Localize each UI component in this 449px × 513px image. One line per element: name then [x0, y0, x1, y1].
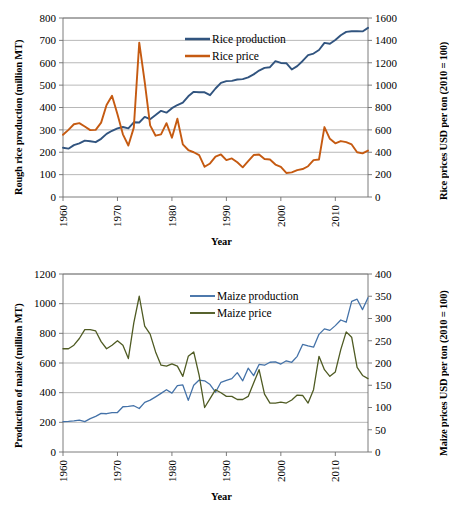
y-tick-label: 200	[40, 416, 57, 428]
rice-x-axis-title: Year	[0, 236, 443, 247]
maize-y-axis-title: Production of maize (million MT)	[13, 304, 24, 448]
y2-tick-label: 1400	[375, 34, 398, 46]
x-tick-label: 1970	[111, 205, 123, 228]
x-tick-label: 1960	[57, 205, 69, 228]
x-tick-label: 1990	[220, 460, 232, 483]
y-tick-label: 1200	[34, 268, 57, 280]
y-tick-label: 800	[40, 327, 57, 339]
y2-tick-label: 0	[375, 191, 381, 203]
maize-chart-panel: 0200400600800100012000501001502002503003…	[0, 256, 443, 512]
y-tick-label: 600	[40, 357, 57, 369]
y2-tick-label: 100	[375, 401, 392, 413]
y-tick-label: 400	[40, 386, 57, 398]
y2-tick-label: 0	[375, 446, 381, 458]
y-tick-label: 400	[40, 101, 57, 113]
x-tick-label: 2010	[329, 460, 341, 483]
y-tick-label: 300	[40, 124, 57, 136]
rice-y2-axis-title: Rice prices USD per ton (2010 = 100)	[438, 42, 449, 200]
y2-tick-label: 50	[375, 424, 387, 436]
rice-y-axis-title: Rough rice production (million MT)	[13, 40, 24, 195]
y-tick-label: 1000	[34, 297, 57, 309]
maize-y2-axis-title: Maize prices USD per ton (2010 = 100)	[438, 291, 449, 457]
y2-tick-label: 300	[375, 312, 392, 324]
legend-label-2: Rice price	[212, 50, 259, 63]
y2-tick-label: 400	[375, 268, 392, 280]
x-tick-label: 2010	[329, 205, 341, 228]
y-tick-label: 100	[40, 168, 57, 180]
x-tick-label: 2000	[275, 460, 287, 483]
maize-plot-area: 0200400600800100012000501001502002503003…	[0, 256, 443, 512]
y2-tick-label: 200	[375, 168, 392, 180]
x-tick-label: 2000	[275, 205, 287, 228]
y2-tick-label: 1000	[375, 79, 398, 91]
x-tick-label: 1980	[166, 460, 178, 483]
y2-tick-label: 350	[375, 290, 392, 302]
rice-chart-panel: 0100200300400500600700800020040060080010…	[0, 0, 443, 256]
y-tick-label: 700	[40, 34, 57, 46]
y2-tick-label: 1600	[375, 12, 398, 24]
y2-tick-label: 800	[375, 101, 392, 113]
legend-label-1: Maize production	[217, 290, 299, 303]
legend-label-2: Maize price	[217, 307, 272, 320]
maize-x-axis-title: Year	[0, 491, 443, 502]
rice-plot-area: 0100200300400500600700800020040060080010…	[0, 0, 443, 256]
y2-tick-label: 250	[375, 335, 392, 347]
y-tick-label: 0	[51, 446, 57, 458]
x-tick-label: 1990	[220, 205, 232, 228]
y2-tick-label: 400	[375, 146, 392, 158]
x-tick-label: 1960	[57, 460, 69, 483]
legend-label-1: Rice production	[212, 33, 286, 46]
y-tick-label: 500	[40, 79, 57, 91]
y2-tick-label: 1200	[375, 57, 398, 69]
y-tick-label: 0	[51, 191, 57, 203]
x-tick-label: 1970	[111, 460, 123, 483]
y2-tick-label: 200	[375, 357, 392, 369]
x-tick-label: 1980	[166, 205, 178, 228]
y-tick-label: 600	[40, 57, 57, 69]
y2-tick-label: 600	[375, 124, 392, 136]
y-tick-label: 800	[40, 12, 57, 24]
y2-tick-label: 150	[375, 379, 392, 391]
y-tick-label: 200	[40, 146, 57, 158]
